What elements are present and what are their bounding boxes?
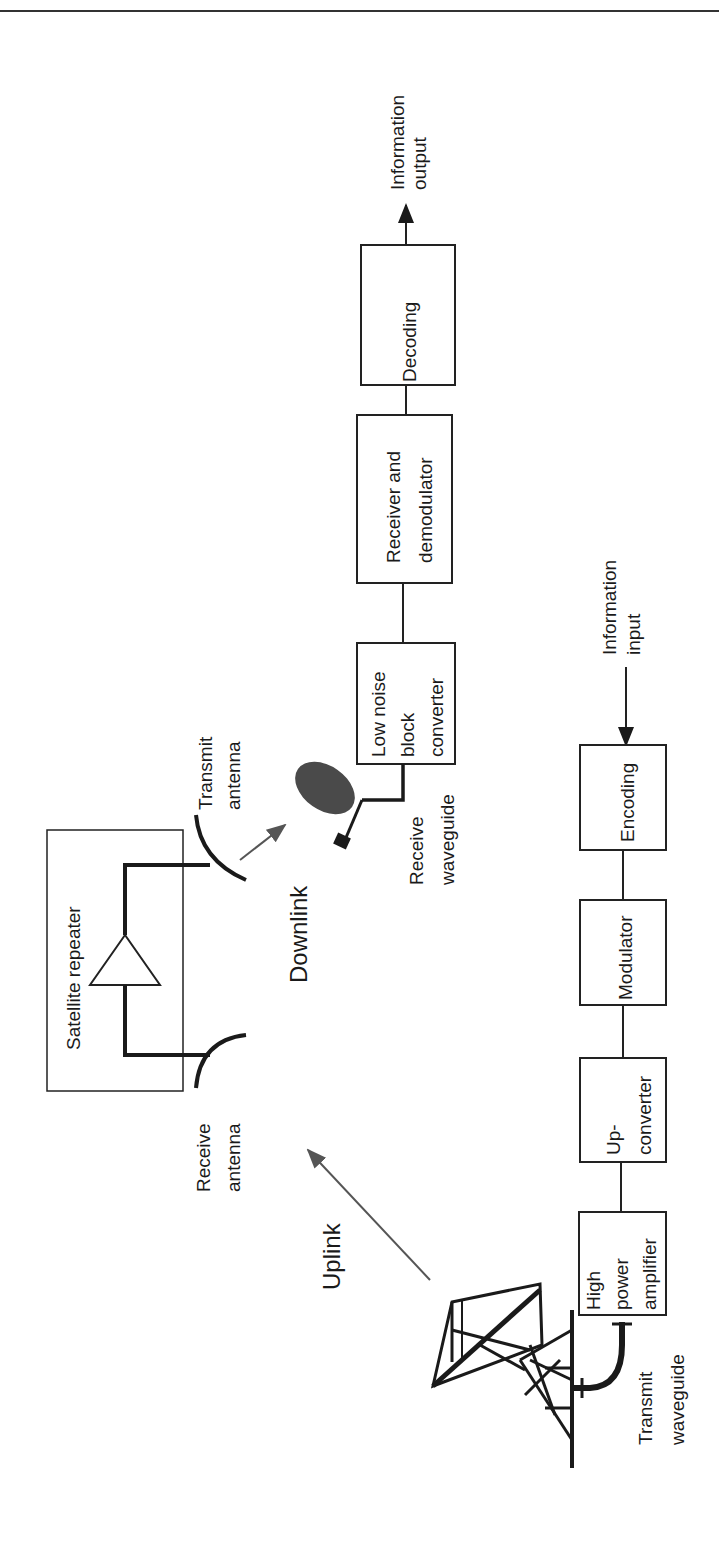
uplink-label: Uplink (318, 1222, 345, 1290)
transmit-waveguide-label: Transmit waveguide (635, 1354, 688, 1446)
low-noise-block-converter: Low noise block converter (357, 643, 455, 764)
transmit-antenna-icon (196, 815, 246, 880)
information-input-label: Information input (599, 555, 644, 655)
decoding-block: Decoding (361, 245, 455, 385)
receive-antenna-label: Receive antenna (193, 1118, 244, 1192)
amplifier-triangle-icon (90, 935, 160, 985)
receive-antenna-icon (196, 1035, 246, 1088)
downlink-label: Downlink (285, 885, 312, 983)
transmit-waveguide (570, 1322, 622, 1388)
receive-dish-icon (285, 751, 364, 849)
svg-text:Modulator: Modulator (615, 915, 636, 1000)
svg-text:Satellite repeater: Satellite repeater (63, 906, 84, 1050)
downlink-arrow (240, 825, 285, 860)
modulator-block: Modulator (580, 900, 666, 1005)
ground-station-dish-icon (433, 1284, 572, 1468)
receiver-demodulator-block: Receiver and demodulator (357, 415, 452, 583)
svg-text:Encoding: Encoding (617, 763, 638, 842)
satellite-repeater: Satellite repeater (47, 830, 210, 1091)
high-power-amplifier-block: High power amplifier (579, 1212, 666, 1315)
receive-waveguide (362, 764, 403, 800)
svg-text:Decoding: Decoding (399, 302, 420, 382)
satellite-link-diagram: Information output Decoding Receiver and… (0, 0, 719, 1553)
encoding-block: Encoding (580, 745, 666, 850)
information-output-label: Information output (387, 90, 430, 190)
transmit-antenna-label: Transmit antenna (195, 732, 244, 810)
upconverter-block: Up- converter (580, 1058, 666, 1162)
receive-waveguide-label: Receive waveguide (406, 794, 458, 886)
